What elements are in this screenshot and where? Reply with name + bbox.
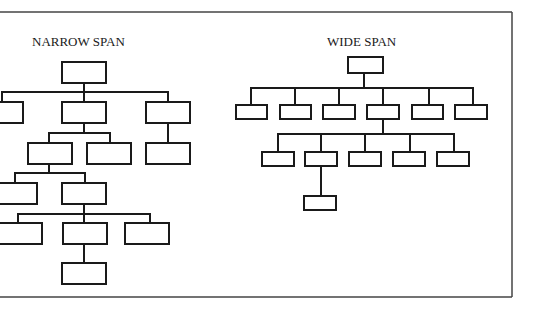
org-position-box — [146, 102, 190, 123]
org-position-box — [87, 143, 131, 164]
wide-span-chart: WIDE SPAN — [236, 34, 487, 210]
narrow-span-title: NARROW SPAN — [32, 34, 125, 49]
org-position-box — [0, 223, 42, 244]
org-position-box — [146, 143, 190, 164]
org-position-box — [262, 152, 294, 166]
org-position-box — [0, 183, 37, 204]
diagram-canvas: NARROW SPAN WIDE SPAN — [0, 0, 538, 312]
org-position-box — [236, 105, 267, 119]
org-position-box — [367, 105, 399, 119]
org-position-box — [62, 62, 106, 83]
org-position-box — [125, 223, 169, 244]
org-position-box — [62, 183, 106, 204]
org-position-box — [393, 152, 425, 166]
org-position-box — [62, 263, 106, 284]
wide-span-connectors — [251, 73, 473, 196]
org-position-box — [323, 105, 355, 119]
org-position-box — [412, 105, 443, 119]
org-position-box — [63, 223, 107, 244]
org-position-box — [304, 196, 336, 210]
org-position-box — [28, 143, 72, 164]
diagram-frame — [0, 12, 512, 297]
org-position-box — [62, 102, 106, 123]
narrow-span-chart: NARROW SPAN — [0, 34, 190, 284]
org-position-box — [349, 152, 381, 166]
org-position-box — [0, 102, 23, 123]
wide-span-title: WIDE SPAN — [327, 34, 397, 49]
org-position-box — [280, 105, 311, 119]
org-position-box — [455, 105, 487, 119]
org-span-diagram: NARROW SPAN WIDE SPAN — [0, 0, 538, 312]
org-position-box — [348, 57, 383, 73]
org-position-box — [305, 152, 337, 166]
org-position-box — [437, 152, 469, 166]
